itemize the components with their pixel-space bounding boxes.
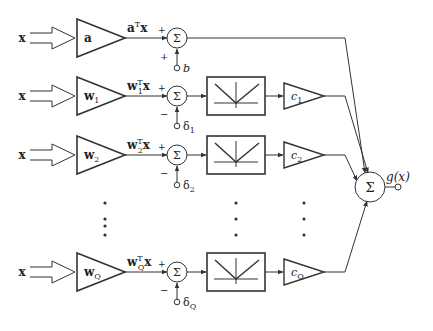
input-arrow-icon bbox=[30, 144, 75, 166]
weight-label: wQ bbox=[83, 265, 101, 281]
coefficient-label: c2 bbox=[291, 149, 302, 164]
bias-terminal bbox=[174, 299, 180, 305]
ellipsis-dot bbox=[302, 233, 305, 236]
product-label: aTx bbox=[127, 20, 148, 35]
product-label: wTQx bbox=[126, 254, 152, 272]
bypass-line bbox=[187, 38, 365, 173]
input-label-x: x bbox=[18, 89, 26, 103]
coefficient-gain-block bbox=[284, 259, 324, 285]
input-sign: + bbox=[158, 25, 166, 35]
ellipsis-dot bbox=[103, 233, 106, 236]
input-sign: + bbox=[158, 83, 166, 93]
weight-label: a bbox=[84, 31, 92, 45]
ellipsis-dot bbox=[302, 217, 305, 220]
ellipsis-dot bbox=[234, 217, 237, 220]
sum-symbol: Σ bbox=[173, 32, 181, 45]
ellipsis-dot bbox=[302, 201, 305, 204]
abs-function-icon bbox=[215, 260, 259, 279]
output-label: g(x) bbox=[386, 170, 410, 184]
bias-sign: − bbox=[160, 109, 168, 120]
block-diagram: xaaTx++Σbxw1wT1x+−Σδ1c1xw2wT2x+−Σδ2c2xwQ… bbox=[0, 0, 433, 331]
input-label-x: x bbox=[18, 31, 26, 45]
bias-label: δQ bbox=[183, 296, 197, 311]
input-arrow-icon bbox=[30, 261, 75, 283]
input-arrow-icon bbox=[30, 27, 75, 49]
ellipsis-dot bbox=[103, 217, 106, 220]
weight-label: w2 bbox=[83, 148, 99, 164]
bias-terminal bbox=[174, 182, 180, 188]
ellipsis-dot bbox=[103, 201, 106, 204]
sum-symbol: Σ bbox=[173, 149, 181, 162]
input-sign: + bbox=[158, 142, 166, 152]
coefficient-gain-block bbox=[284, 142, 324, 168]
diagram-svg: xaaTx++Σbxw1wT1x+−Σδ1c1xw2wT2x+−Σδ2c2xwQ… bbox=[0, 0, 433, 331]
product-label: wT1x bbox=[126, 78, 151, 96]
product-label: wT2x bbox=[126, 137, 151, 155]
output-connector-line bbox=[324, 96, 368, 173]
abs-function-icon bbox=[215, 143, 259, 162]
coefficient-label: c1 bbox=[291, 90, 302, 105]
input-arrow-icon bbox=[30, 85, 75, 107]
output-sum-symbol: Σ bbox=[365, 180, 374, 195]
output-terminal bbox=[395, 184, 401, 190]
sum-symbol: Σ bbox=[173, 266, 181, 279]
input-label-x: x bbox=[18, 148, 26, 162]
coefficient-gain-block bbox=[284, 83, 324, 109]
bias-label: δ2 bbox=[183, 179, 195, 194]
ellipsis-dot bbox=[234, 233, 237, 236]
ellipsis-dot bbox=[234, 201, 237, 204]
output-connector-line bbox=[324, 155, 357, 181]
ellipsis-dot bbox=[103, 224, 106, 227]
output-connector-line bbox=[324, 201, 367, 272]
abs-function-icon bbox=[215, 84, 259, 103]
weight-label: w1 bbox=[83, 89, 99, 105]
sum-symbol: Σ bbox=[173, 90, 181, 103]
input-label-x: x bbox=[18, 265, 26, 279]
bias-terminal bbox=[174, 65, 180, 71]
bias-sign: + bbox=[160, 51, 168, 62]
input-sign: + bbox=[158, 259, 166, 269]
bias-label: δ1 bbox=[183, 120, 195, 135]
bias-sign: − bbox=[160, 168, 168, 179]
bias-sign: − bbox=[160, 285, 168, 296]
bias-terminal bbox=[174, 123, 180, 129]
bias-label: b bbox=[183, 62, 190, 75]
coefficient-label: cQ bbox=[291, 266, 304, 281]
